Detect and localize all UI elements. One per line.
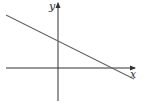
x-axis-label: x xyxy=(130,68,137,81)
graph-line xyxy=(6,15,134,79)
y-axis-label: y xyxy=(48,0,56,13)
coordinate-plane: y x xyxy=(0,0,144,104)
